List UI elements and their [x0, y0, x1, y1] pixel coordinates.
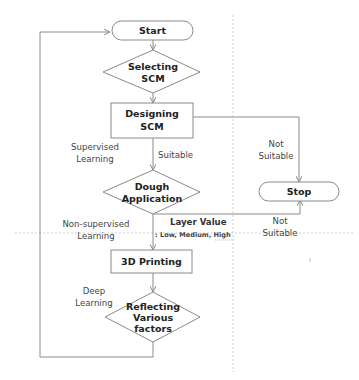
selecting-scm-node: Selecting SCM — [103, 50, 200, 93]
stop-node: Stop — [259, 182, 339, 201]
svg-text:Deep: Deep — [83, 286, 106, 296]
dough-line-2: Application — [122, 193, 183, 204]
reflecting-factors-node: Reflecting Various factors — [105, 292, 200, 342]
designing-line-2: SCM — [140, 121, 163, 132]
start-label: Start — [139, 25, 166, 36]
selecting-line-1: Selecting — [128, 61, 178, 72]
designing-scm-node: Designing SCM — [111, 103, 193, 138]
svg-text:Suitable: Suitable — [258, 151, 293, 161]
label-non-supervised-learning: Non-supervised Learning — [62, 219, 129, 241]
svg-text:Learning: Learning — [76, 154, 113, 164]
printing-label: 3D Printing — [121, 256, 182, 267]
label-supervised-learning: Supervised Learning — [71, 142, 119, 164]
label-deep-learning: Deep Learning — [75, 286, 112, 308]
stop-label: Stop — [287, 186, 312, 197]
connector-designing-stop — [193, 117, 299, 181]
label-not-suitable-bottom: Not Suitable — [262, 216, 297, 238]
reflecting-line-3: factors — [134, 323, 172, 334]
svg-text:Not: Not — [272, 216, 288, 226]
designing-line-1: Designing — [125, 108, 179, 119]
svg-text:Learning: Learning — [75, 298, 112, 308]
svg-text:Not: Not — [268, 139, 284, 149]
label-layer-value: Layer Value — [170, 217, 227, 227]
selecting-line-2: SCM — [141, 73, 164, 84]
reflecting-line-2: Various — [133, 312, 173, 323]
start-node: Start — [112, 21, 193, 40]
flowchart-canvas: Start Selecting SCM Designing SCM Dough … — [0, 0, 359, 380]
svg-text:Learning: Learning — [77, 231, 114, 241]
svg-text:Non-supervised: Non-supervised — [62, 219, 129, 229]
svg-text:Supervised: Supervised — [71, 142, 119, 152]
dough-application-node: Dough Application — [103, 170, 200, 214]
label-not-suitable-top: Not Suitable — [258, 139, 293, 161]
dough-line-1: Dough — [135, 181, 170, 192]
label-layer-levels: : Low, Medium, High — [155, 231, 231, 239]
label-suitable: Suitable — [158, 150, 193, 160]
svg-text:Suitable: Suitable — [262, 228, 297, 238]
reflecting-line-1: Reflecting — [126, 301, 180, 312]
3d-printing-node: 3D Printing — [111, 250, 192, 273]
